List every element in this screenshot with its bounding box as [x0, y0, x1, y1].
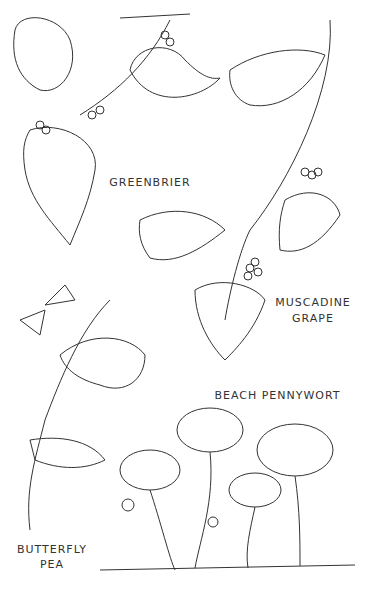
greenbrier-plant	[14, 14, 220, 245]
butterfly-label-line2: PEA	[12, 557, 92, 572]
muscadine-label-line2: GRAPE	[268, 311, 358, 326]
butterfly-pea-plant	[20, 285, 145, 530]
greenbrier-label: GREENBRIER	[105, 175, 195, 190]
pennywort-label: BEACH PENNYWORT	[205, 388, 350, 403]
beach-pennywort-plant	[100, 408, 355, 570]
muscadine-label-line1: MUSCADINE	[268, 295, 358, 310]
butterfly-label-line1: BUTTERFLY	[12, 542, 92, 557]
